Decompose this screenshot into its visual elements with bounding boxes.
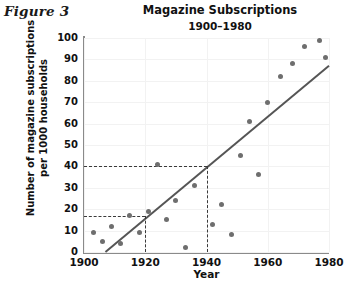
y-tick-label: 90	[50, 53, 78, 64]
y-tick-label: 50	[50, 139, 78, 150]
data-point	[192, 183, 197, 188]
gridline-horizontal	[84, 252, 329, 253]
x-tick-label: 1980	[309, 256, 348, 268]
reference-line-vertical	[207, 166, 208, 252]
data-point	[238, 153, 243, 158]
data-point	[109, 224, 114, 229]
data-point	[146, 209, 151, 214]
data-point	[278, 74, 283, 79]
reference-line-horizontal	[84, 166, 207, 167]
data-point	[317, 38, 322, 43]
y-tick-label: 60	[50, 118, 78, 129]
x-tick-label: 1940	[187, 256, 227, 268]
data-point	[210, 222, 215, 227]
y-tick-label: 100	[50, 32, 78, 43]
gridline-vertical	[329, 38, 330, 252]
y-tick-label: 20	[50, 203, 78, 214]
data-point	[100, 239, 105, 244]
data-point	[155, 162, 160, 167]
y-tick-label: 40	[50, 160, 78, 171]
y-tick-label: 70	[50, 96, 78, 107]
trend-line	[105, 66, 329, 252]
data-point	[137, 230, 142, 235]
reference-line-horizontal	[84, 216, 145, 217]
data-point	[247, 119, 252, 124]
reference-line-vertical	[145, 216, 146, 252]
x-tick-label: 1960	[248, 256, 288, 268]
data-point	[265, 100, 270, 105]
x-tick-label: 1900	[64, 256, 104, 268]
x-tick-label: 1920	[125, 256, 165, 268]
data-point	[91, 230, 96, 235]
plot-area	[84, 38, 329, 252]
data-point	[229, 232, 234, 237]
data-point	[183, 245, 188, 250]
y-tick-label: 10	[50, 225, 78, 236]
y-tick-label: 80	[50, 75, 78, 86]
y-tick-label: 30	[50, 182, 78, 193]
data-point	[290, 61, 295, 66]
